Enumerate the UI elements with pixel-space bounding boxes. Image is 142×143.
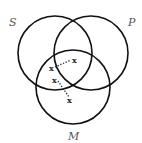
x-mark-3: x (52, 75, 57, 85)
x-mark-4: x (67, 95, 72, 105)
circle-p (54, 16, 128, 90)
label-p: P (127, 16, 136, 29)
label-s: S (9, 16, 17, 29)
x-mark-1: x (72, 55, 77, 65)
label-m: M (67, 130, 80, 143)
dotted-link-upper (55, 60, 71, 67)
venn-diagram: S P M x x x x (0, 0, 142, 143)
x-mark-2: x (49, 63, 54, 73)
